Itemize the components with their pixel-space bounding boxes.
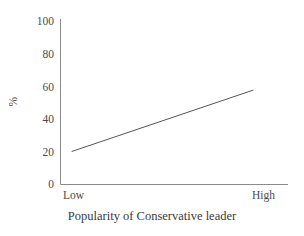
- x-tick-label-low: Low: [63, 190, 84, 202]
- line-chart: 100 80 60 40 20 0 Low High % Popularity …: [0, 0, 304, 236]
- y-tick-label-100: 100: [24, 16, 54, 28]
- x-axis-title: Popularity of Conservative leader: [0, 210, 304, 223]
- y-tick-label-0: 0: [24, 179, 54, 191]
- y-axis-title: %: [8, 90, 20, 114]
- y-tick-label-80: 80: [24, 49, 54, 61]
- y-tick-label-20: 20: [24, 147, 54, 159]
- x-tick-label-high: High: [252, 190, 275, 202]
- y-tick-label-40: 40: [24, 114, 54, 126]
- y-tick-label-60: 60: [24, 82, 54, 94]
- data-series-line: [72, 90, 253, 151]
